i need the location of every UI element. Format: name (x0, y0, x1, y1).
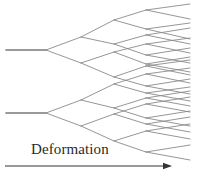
tree-branch-segment (114, 84, 146, 93)
tree-branch-segment (114, 131, 146, 141)
tree-branch-segment (46, 113, 81, 126)
tree-branch-segment (114, 114, 146, 124)
tree-branch-segment (146, 55, 190, 63)
tree-branch-segment (146, 131, 190, 139)
tree-branch-segment (146, 10, 190, 19)
tree-branch-segment (114, 20, 146, 29)
tree-branch-segment (81, 63, 114, 77)
branching-deformation-figure: Deformation (0, 0, 197, 179)
deformation-arrow-graphic (0, 155, 197, 179)
tree-branch-segment (46, 37, 81, 50)
tree-branch-segment (46, 50, 81, 63)
tree-branch-segment (81, 84, 114, 100)
tree-branch-segment (81, 20, 114, 37)
arrow-group (5, 163, 172, 169)
tree-branch-segment (114, 35, 146, 44)
tree-branch-segment (146, 23, 190, 29)
tree-branch-segment (114, 98, 146, 108)
tree-branch-segment (81, 126, 114, 141)
arrow-head (163, 163, 172, 169)
tree-branch-segment (114, 108, 146, 118)
tree-branch-segment (146, 79, 190, 86)
tree-branch-segment (146, 97, 190, 104)
tree-branch-segment (146, 145, 190, 152)
tree-branch-segment (81, 37, 114, 44)
tree-branch-segment (114, 104, 146, 114)
tree-branch-segment (114, 77, 146, 86)
tree-branch-segment (146, 4, 190, 10)
tree-branch-segment (146, 111, 190, 118)
tree-branch-segment (114, 10, 146, 20)
tree-branch-segment (146, 117, 190, 124)
tree-branch-group (6, 4, 190, 160)
tree-branch-segment (81, 52, 114, 63)
tree-branch-segment (81, 100, 114, 108)
tree-branch-segment (114, 141, 146, 152)
tree-branch-segment (46, 100, 81, 113)
tree-branch-segment (81, 114, 114, 126)
tree-branch-segment (146, 74, 190, 83)
